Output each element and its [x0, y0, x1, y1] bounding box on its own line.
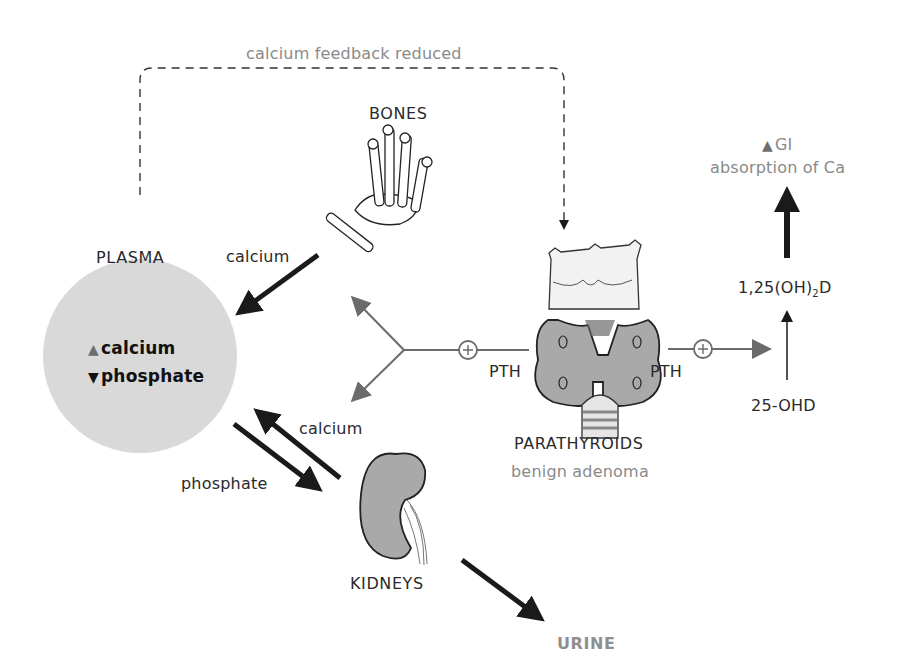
increase-triangle-icon: ▲ — [88, 341, 99, 357]
pth-right-label: PTH — [650, 362, 682, 381]
decrease-triangle-icon: ▼ — [88, 369, 99, 385]
plasma-calcium-item: ▲calcium — [88, 338, 175, 358]
hand-bones-icon — [325, 125, 432, 253]
kidney-icon — [360, 453, 427, 565]
gi-label: ▲GI — [762, 135, 793, 154]
kidney-phosphate-label: phosphate — [181, 474, 267, 493]
plasma-phosphate-item: ▼phosphate — [88, 366, 204, 386]
bones-calcium-label: calcium — [226, 247, 289, 266]
kidneys-title: KIDNEYS — [350, 574, 424, 593]
feedback-label: calcium feedback reduced — [246, 44, 462, 63]
parathyroid-icon — [535, 240, 661, 438]
25ohd-label: 25-OHD — [751, 396, 816, 415]
increase-triangle-icon: ▲ — [762, 137, 773, 153]
parathyroids-title: PARATHYROIDS — [514, 434, 643, 453]
active-vitamin-d-label: 1,25(OH)2D — [738, 278, 831, 299]
pth-to-kidney-arrow — [355, 350, 404, 398]
urine-label: URINE — [557, 634, 616, 653]
pth-to-bones-arrow — [355, 300, 404, 350]
pth-physiology-diagram — [0, 0, 921, 671]
feedback-dashed-arrow — [140, 68, 564, 228]
parathyroids-subtitle: benign adenoma — [511, 462, 649, 481]
gi-absorption-label: absorption of Ca — [710, 158, 845, 177]
kidney-to-urine-arrow — [462, 560, 540, 618]
plasma-title: PLASMA — [96, 248, 164, 267]
bones-title: BONES — [369, 104, 428, 123]
pth-left-label: PTH — [489, 362, 521, 381]
kidney-calcium-label: calcium — [299, 419, 362, 438]
